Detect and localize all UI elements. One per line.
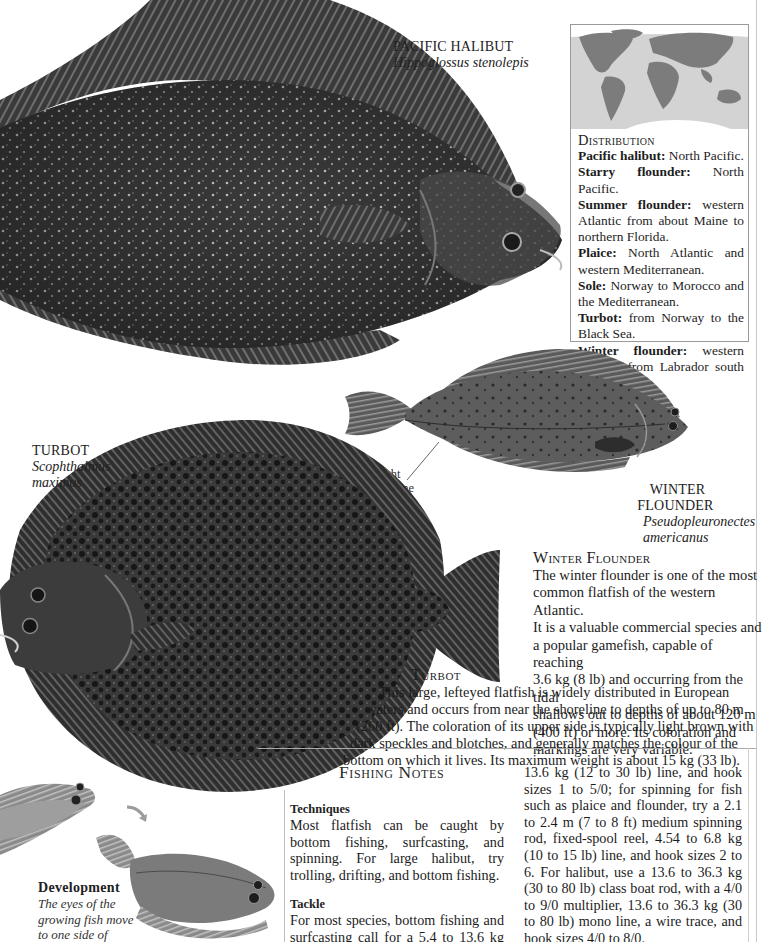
fishing-notes-top-rule [258, 748, 756, 749]
winter-flounder-caption: WINTER FLOUNDER [580, 482, 735, 514]
distribution-entry: Turbot: from Norway to the Black Sea. [578, 310, 744, 342]
species-common-name: TURBOT [32, 443, 111, 459]
article-line: The winter flounder is one of the most [533, 567, 763, 584]
world-distribution-map [571, 25, 748, 129]
distribution-entry: Summer flounder: western Atlantic from a… [578, 197, 744, 246]
species-common-name: WINTER [580, 482, 735, 498]
pacific-halibut-caption: PACIFIC HALIBUT Hippoglossus stenolepis [393, 39, 529, 71]
caption-line: The eyes of the [38, 896, 134, 912]
species-latin-name: maximus [32, 475, 111, 491]
species-latin-name: Hippoglossus stenolepis [393, 55, 529, 71]
article-line: a popular gamefish, capable of reaching [533, 637, 763, 672]
article-line: dark speckles and blotches, and generall… [350, 735, 738, 752]
species-latin-name: Pseudopleuronectes [643, 514, 755, 530]
development-caption: Development The eyes of the growing fish… [38, 880, 134, 942]
distribution-entry: Plaice: North Atlantic and western Medit… [578, 245, 744, 277]
winter-flounder-latin: Pseudopleuronectes americanus [643, 514, 755, 546]
caption-line: growing fish move [38, 912, 134, 928]
tackle-heading: Tackle [290, 897, 504, 912]
arrow-icon [125, 803, 151, 825]
article-line: waters and occurs from near the shorelin… [366, 701, 744, 718]
species-latin-name: Scophthalmus [32, 459, 111, 475]
larval-flatfish-illustration [0, 775, 100, 875]
article-line: (260 ft). The coloration of its upper si… [356, 718, 753, 735]
article-line: This large, lefteyed flatfish is widely … [379, 684, 729, 701]
distribution-entry: Sole: Norway to Morocco and the Mediterr… [578, 278, 744, 310]
techniques-heading: Techniques [290, 802, 504, 817]
caption-line: to one side of [38, 927, 134, 942]
species-common-name: PACIFIC HALIBUT [393, 39, 529, 55]
distribution-entry: Starry flounder: North Pacific. [578, 164, 744, 196]
article-line: common flatfish of the western Atlantic. [533, 584, 763, 619]
turbot-caption: TURBOT Scophthalmus maximus [32, 443, 111, 491]
species-latin-name: americanus [643, 530, 755, 546]
techniques-text: Most flatfish can be caught by bottom fi… [290, 817, 504, 883]
page-edge-rule [756, 0, 757, 942]
fishing-notes-title: Fishing Notes [339, 762, 444, 783]
fishing-notes-left-rule [284, 790, 285, 942]
development-title: Development [38, 880, 134, 896]
fishing-notes-column-2: 13.6 kg (12 to 30 lb) line, and hook siz… [524, 764, 742, 942]
development-body: The eyes of the growing fish move to one… [38, 896, 134, 942]
article-heading: Winter Flounder [533, 549, 763, 567]
tackle-text-part-2: 13.6 kg (12 to 30 lb) line, and hook siz… [524, 764, 742, 942]
fishing-notes-right-rule [748, 748, 749, 942]
distribution-entry: Pacific halibut: North Pacific. [578, 148, 744, 164]
distribution-box: Distribution Pacific halibut: North Paci… [570, 24, 749, 342]
fishing-notes-column-1: Techniques Most flatfish can be caught b… [290, 802, 504, 942]
article-line: It is a valuable commercial species and [533, 619, 763, 636]
tackle-text-part-1: For most species, bottom fishing and sur… [290, 912, 504, 942]
turbot-article-heading: Turbot [411, 666, 461, 684]
world-map-icon [571, 25, 748, 129]
species-common-name: FLOUNDER [580, 498, 735, 514]
distribution-heading: Distribution [578, 132, 744, 148]
